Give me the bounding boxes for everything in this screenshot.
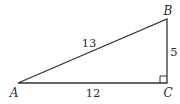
right-angle-marker-icon <box>160 76 167 83</box>
side-label-bc: 5 <box>170 45 177 59</box>
side-label-ab: 13 <box>82 36 97 50</box>
vertex-label-a: A <box>9 86 19 100</box>
side-label-ac: 12 <box>86 86 101 100</box>
vertex-label-b: B <box>163 4 173 18</box>
triangle-abc <box>18 19 167 83</box>
triangle-diagram: A B C 13 12 5 <box>0 0 180 104</box>
vertex-label-c: C <box>163 86 172 100</box>
